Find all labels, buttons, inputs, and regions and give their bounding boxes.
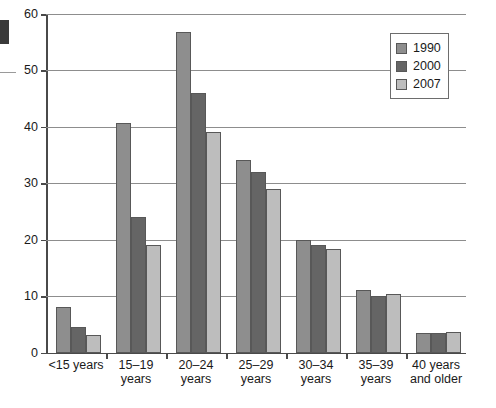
chart-legend: 199020002007 xyxy=(390,33,449,99)
legend-label: 2007 xyxy=(413,78,441,91)
bar-group xyxy=(296,15,341,353)
bar xyxy=(116,123,131,353)
y-tick-mark xyxy=(41,14,46,16)
bar-group xyxy=(176,15,221,353)
bar xyxy=(371,296,386,352)
y-tick-mark xyxy=(41,183,46,185)
x-axis-category-label: 15–19 years xyxy=(106,358,166,386)
bar xyxy=(56,307,71,352)
legend-item: 2007 xyxy=(396,75,441,93)
bar-group xyxy=(56,15,101,353)
x-axis-line xyxy=(46,353,466,355)
legend-swatch-icon xyxy=(396,79,407,90)
y-tick-label: 60 xyxy=(24,8,38,21)
bar xyxy=(71,327,86,352)
y-tick-mark xyxy=(41,353,46,355)
y-tick-label: 20 xyxy=(24,233,38,246)
y-tick-mark xyxy=(41,296,46,298)
bar xyxy=(446,332,461,353)
bar-group xyxy=(116,15,161,353)
bar xyxy=(131,217,146,352)
bar xyxy=(326,249,341,353)
y-tick-mark xyxy=(41,127,46,129)
legend-swatch-icon xyxy=(396,43,407,54)
bar xyxy=(86,335,101,352)
bar xyxy=(386,294,401,352)
y-tick-mark xyxy=(41,240,46,242)
bar xyxy=(266,189,281,353)
bar-chart-figure: 0102030405060 <15 years15–19 years20–24 … xyxy=(0,0,496,408)
legend-label: 2000 xyxy=(413,60,441,73)
x-axis-category-label: 35–39 years xyxy=(346,358,406,386)
x-axis-category-label: <15 years xyxy=(46,358,106,372)
bar xyxy=(251,172,266,353)
y-tick-label: 50 xyxy=(24,64,38,77)
bar xyxy=(236,160,251,353)
x-axis-category-label: 25–29 years xyxy=(226,358,286,386)
bar xyxy=(296,240,311,353)
legend-swatch-icon xyxy=(396,61,407,72)
scan-artifact-block xyxy=(0,20,9,44)
y-tick-mark xyxy=(41,70,46,72)
scan-artifact-rule xyxy=(0,72,16,73)
y-tick-label: 30 xyxy=(24,177,38,190)
legend-item: 2000 xyxy=(396,57,441,75)
bar xyxy=(191,93,206,353)
bar xyxy=(176,32,191,352)
bar xyxy=(146,245,161,352)
bar xyxy=(416,333,431,353)
y-tick-label: 0 xyxy=(31,346,38,359)
bar xyxy=(206,132,221,352)
legend-label: 1990 xyxy=(413,42,441,55)
x-axis-category-label: 20–24 years xyxy=(166,358,226,386)
bar xyxy=(356,290,371,352)
legend-item: 1990 xyxy=(396,39,441,57)
x-axis-category-label: 30–34 years xyxy=(286,358,346,386)
bar xyxy=(431,333,446,353)
y-tick-label: 40 xyxy=(24,121,38,134)
bar xyxy=(311,245,326,352)
x-axis-category-label: 40 years and older xyxy=(406,358,466,386)
bar-group xyxy=(236,15,281,353)
y-tick-label: 10 xyxy=(24,290,38,303)
